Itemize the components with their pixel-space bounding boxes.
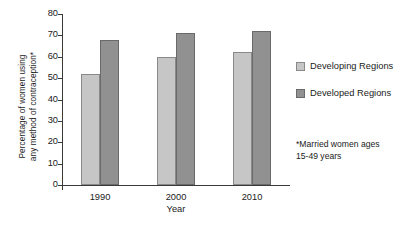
y-tick-label: 50 [48,72,58,82]
x-tick-label: 2000 [146,192,206,202]
x-tick-mark [62,186,63,190]
legend-label-developing: Developing Regions [310,61,393,71]
y-tick-label: 10 [48,158,58,168]
legend-swatch-icon-developing [296,62,305,71]
legend-label-developed: Developed Regions [310,88,391,98]
y-tick-label: 0 [53,179,58,189]
x-axis-title: Year [62,204,290,214]
y-tick-mark [58,78,62,79]
x-tick-label: 2010 [222,192,282,202]
y-tick-mark [58,164,62,165]
bar-group [233,14,271,185]
plot-area: 01020304050607080 199020002010 [62,14,290,186]
chart-footnote: *Married women ages 15-49 years [296,139,380,162]
bar [176,33,195,185]
y-tick-mark [58,14,62,15]
y-tick-mark [58,121,62,122]
y-tick-mark [58,35,62,36]
y-tick-label: 80 [48,8,58,18]
y-tick-mark [58,57,62,58]
legend-item-developing: Developing Regions [296,61,393,71]
y-tick-mark [58,100,62,101]
y-axis-title: Percentage of women using any method of … [18,17,39,197]
legend-swatch-icon-developed [296,89,305,98]
bar-group [81,14,119,185]
chart-legend: Developing Regions Developed Regions [296,61,393,115]
y-tick-label: 40 [48,94,58,104]
bar [157,57,176,185]
y-tick-label: 70 [48,29,58,39]
legend-item-developed: Developed Regions [296,88,393,98]
x-tick-label: 1990 [70,192,130,202]
y-axis-line [62,14,63,186]
bar-group [157,14,195,185]
y-tick-mark [58,142,62,143]
bar [100,40,119,185]
y-tick-label: 60 [48,51,58,61]
bar [81,74,100,185]
y-tick-label: 30 [48,115,58,125]
x-axis-line [62,185,290,186]
bar [233,52,252,185]
bar [252,31,271,185]
bar-chart-figure: Percentage of women using any method of … [0,0,404,229]
y-tick-label: 20 [48,136,58,146]
